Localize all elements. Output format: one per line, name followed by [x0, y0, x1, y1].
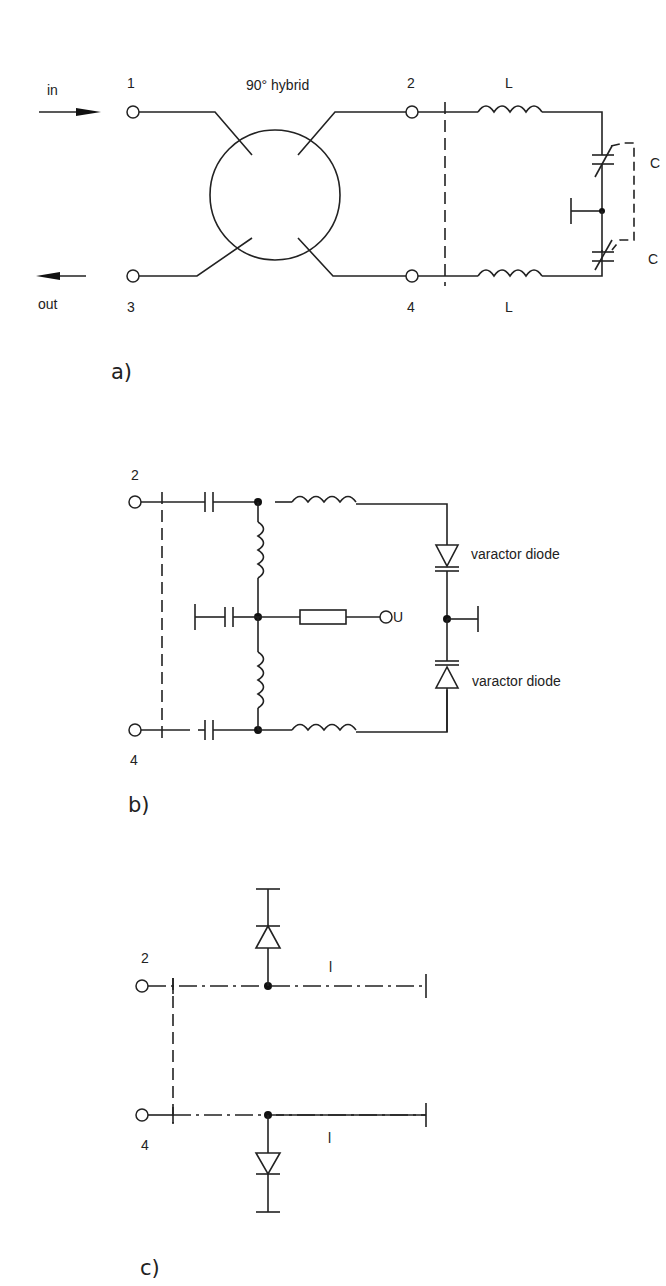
diode-bottom-icon — [256, 1115, 280, 1212]
port-4-terminal — [406, 270, 418, 282]
port-4-label-c: 4 — [141, 1137, 149, 1153]
port-2-label-b: 2 — [131, 467, 139, 483]
inductor-bottom-label: L — [505, 299, 513, 315]
in-label: in — [47, 82, 58, 98]
bias-terminal-label: U — [393, 609, 403, 625]
decoupling-capacitor-icon — [225, 607, 233, 627]
panel-b-label: b) — [128, 793, 150, 817]
variable-capacitor-bottom-icon — [592, 211, 614, 270]
port-4-label: 4 — [407, 299, 415, 315]
varactor-diode-top-icon — [435, 545, 459, 619]
inductor-top-label: L — [505, 75, 513, 91]
coupling-capacitor-top-icon — [205, 492, 213, 512]
port-2-label-c: 2 — [141, 950, 149, 966]
in-arrow-icon — [76, 108, 101, 116]
hybrid-label: 90° hybrid — [246, 77, 309, 93]
out-label: out — [38, 296, 58, 312]
hybrid-circle — [210, 130, 340, 260]
port-4-terminal-c — [136, 1109, 148, 1121]
choke-top-icon — [258, 522, 264, 578]
varactor-bottom-label: varactor diode — [472, 673, 561, 689]
port-4-terminal-b — [129, 724, 141, 736]
inductor-bottom-icon — [478, 270, 542, 276]
out-arrow-icon — [36, 272, 60, 280]
varactor-top-label: varactor diode — [471, 546, 560, 562]
coupling-capacitor-bottom-icon — [205, 720, 213, 740]
port-3-label: 3 — [127, 299, 135, 315]
port-1-terminal — [127, 106, 139, 118]
choke-bottom-icon — [258, 652, 264, 708]
cap-top-label: C — [650, 155, 660, 171]
variable-capacitor-top-icon — [592, 146, 614, 211]
ganged-tuning-link — [611, 143, 634, 250]
panel-a: in out 90° hybrid 1 3 2 4 L L — [36, 75, 660, 384]
port-2-terminal — [406, 106, 418, 118]
inductor-top-b-icon — [292, 497, 356, 503]
line-length-top-label: l — [329, 959, 332, 975]
port-4-label-b: 4 — [130, 752, 138, 768]
port-2-terminal-c — [136, 980, 148, 992]
port-3-terminal — [127, 270, 139, 282]
bias-resistor-icon — [300, 610, 346, 624]
circuit-diagram: in out 90° hybrid 1 3 2 4 L L — [0, 0, 666, 1286]
port-2-label: 2 — [407, 75, 415, 91]
diode-top-icon — [256, 889, 280, 986]
cap-bottom-label: C — [648, 251, 658, 267]
bias-terminal[interactable] — [380, 611, 392, 623]
line-length-bottom-label: l — [328, 1130, 331, 1146]
port-1-label: 1 — [127, 75, 135, 91]
panel-c-label: c) — [140, 1256, 160, 1280]
varactor-diode-bottom-icon — [435, 619, 459, 732]
panel-b: 2 4 — [128, 467, 561, 817]
panel-c: 2 4 l l — [136, 889, 426, 1280]
port-2-terminal-b — [129, 496, 141, 508]
panel-a-label: a) — [111, 360, 132, 384]
inductor-bottom-b-icon — [292, 725, 356, 731]
inductor-top-icon — [478, 106, 542, 112]
